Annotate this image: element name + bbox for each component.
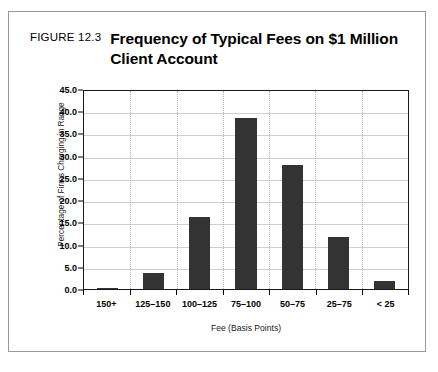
x-tick-slot: 75–100 <box>223 290 270 320</box>
y-tick-label: 20.0 <box>59 196 77 206</box>
bar-slot <box>315 91 361 289</box>
x-axis-ticks: 150+125–150100–12575–10050–7525–75< 25 <box>83 290 409 320</box>
bar <box>235 118 256 289</box>
x-tick-label: 75–100 <box>223 299 270 309</box>
y-tick-label: 45.0 <box>59 85 77 95</box>
figure-title: Frequency of Typical Fees on $1 Million … <box>110 29 402 68</box>
bar-slot <box>84 91 130 289</box>
bar-chart: Percentage of Firms Charging in Range 45… <box>31 90 409 334</box>
x-tick-slot: 25–75 <box>316 290 363 320</box>
bar <box>374 281 395 289</box>
x-tick-label: 50–75 <box>269 299 316 309</box>
bar <box>97 288 118 289</box>
figure-heading: FIGURE 12.3 Frequency of Typical Fees on… <box>30 29 402 68</box>
bar-slot <box>223 91 269 289</box>
figure-number: FIGURE 12.3 <box>30 29 110 43</box>
x-tick-mark <box>362 290 363 295</box>
bar-slot <box>362 91 408 289</box>
y-tick-label: 0.0 <box>64 285 77 295</box>
x-tick-slot: 100–125 <box>176 290 223 320</box>
figure-frame: FIGURE 12.3 Frequency of Typical Fees on… <box>8 11 426 352</box>
x-tick-label: 150+ <box>83 299 130 309</box>
y-tick-label: 5.0 <box>64 263 77 273</box>
x-tick-slot: 125–150 <box>130 290 177 320</box>
y-tick-label: 10.0 <box>59 241 77 251</box>
y-tick-label: 35.0 <box>59 129 77 139</box>
x-tick-mark <box>176 290 177 295</box>
y-tick-label: 30.0 <box>59 152 77 162</box>
x-tick-mark <box>83 290 84 295</box>
x-tick-label: 25–75 <box>316 299 363 309</box>
x-tick-mark <box>223 290 224 295</box>
x-tick-mark <box>130 290 131 295</box>
y-tick-label: 15.0 <box>59 218 77 228</box>
x-tick-slot: 50–75 <box>269 290 316 320</box>
bar-slot <box>130 91 176 289</box>
x-tick-mark <box>408 290 409 295</box>
x-tick-slot: 150+ <box>83 290 130 320</box>
x-tick-slot: < 25 <box>362 290 409 320</box>
y-axis-ticks: 45.040.035.030.025.020.015.010.05.00.0 <box>31 90 83 290</box>
x-tick-mark <box>316 290 317 295</box>
bar-slot <box>269 91 315 289</box>
x-tick-label: 125–150 <box>130 299 177 309</box>
x-tick-label: < 25 <box>362 299 409 309</box>
bar-series <box>84 91 408 289</box>
x-axis-label: Fee (Basis Points) <box>83 323 409 333</box>
x-tick-label: 100–125 <box>176 299 223 309</box>
bar-slot <box>177 91 223 289</box>
bar <box>189 217 210 289</box>
plot-area <box>83 90 409 290</box>
bar <box>328 237 349 289</box>
bar <box>143 273 164 289</box>
bar <box>282 165 303 289</box>
y-tick-label: 25.0 <box>59 174 77 184</box>
y-tick-label: 40.0 <box>59 107 77 117</box>
x-tick-mark <box>269 290 270 295</box>
